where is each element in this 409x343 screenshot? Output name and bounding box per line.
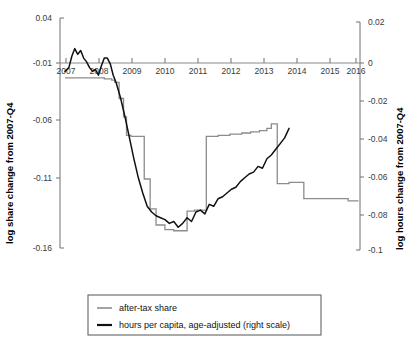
line-chart: log share change from 2007-Q4 log hours … [0,0,409,343]
y-axis-left-tick-labels: 0.04 -0.01 -0.06 -0.11 -0.16 [33,13,53,253]
y-tick-label-left: -0.06 [33,115,53,125]
y-axis-right-tick-labels: 0.02 0 -0.02 -0.04 -0.06 -0.08 -0.1 [368,17,388,255]
y-tick-label-right: -0.02 [368,96,388,106]
x-axis-tick-labels: 2007 2008 2009 2010 2011 2012 2013 2014 … [57,66,366,76]
y-tick-label-right: -0.04 [368,134,388,144]
x-tick-label: 2009 [123,66,142,76]
x-tick-label: 2012 [222,66,241,76]
y-tick-label-left: -0.16 [33,243,53,253]
y-tick-label-right: -0.08 [368,210,388,220]
x-tick-label: 2016 [347,66,366,76]
x-tick-label: 2013 [255,66,274,76]
x-tick-label: 2010 [156,66,175,76]
legend-label-hours-per-capita: hours per capita, age-adjusted (right sc… [119,320,290,330]
y-tick-label-left: 0.04 [35,13,52,23]
chart-legend: after-tax share hours per capita, age-ad… [88,295,321,335]
legend-label-after-tax-share: after-tax share [119,303,177,313]
y-axis-left-ticks [56,63,60,178]
y-tick-label-right: 0.02 [368,17,385,27]
y-axis-right-spine [356,22,360,250]
series-after-tax-share [65,78,359,231]
x-tick-label: 2011 [189,66,208,76]
x-tick-label: 2014 [288,66,307,76]
y-axis-right-title: log hours change from 2007-Q4 [394,107,405,250]
chart-figure: log share change from 2007-Q4 log hours … [0,0,409,343]
y-axis-left-title: log share change from 2007-Q4 [4,102,15,244]
x-tick-label: 2015 [321,66,340,76]
y-tick-label-right: -0.06 [368,172,388,182]
y-axis-left-spine [60,18,64,248]
y-tick-label-left: -0.11 [33,173,52,183]
y-tick-label-right: 0 [368,58,373,68]
y-axis-right-ticks [360,63,364,215]
y-tick-label-right: -0.1 [368,245,383,255]
y-tick-label-left: -0.01 [33,58,53,68]
